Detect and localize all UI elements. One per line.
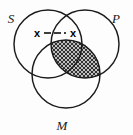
x-mark-right: x xyxy=(70,27,77,39)
venn-diagram-svg: S P M x x xyxy=(0,0,133,135)
set-label-m: M xyxy=(56,118,69,133)
x-mark-left: x xyxy=(34,27,41,39)
set-label-p: P xyxy=(111,11,120,26)
venn-diagram-figure: S P M x x xyxy=(0,0,133,135)
set-label-s: S xyxy=(8,11,15,26)
